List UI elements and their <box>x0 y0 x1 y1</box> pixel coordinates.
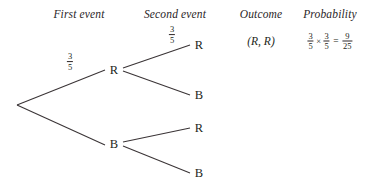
fraction-denominator: 5 <box>323 41 329 50</box>
branch-root-to-b <box>17 105 105 145</box>
node-second-event-red-from-red: R <box>195 39 203 52</box>
fraction-denominator: 5 <box>307 41 313 50</box>
probability-expression-rr: 3 5 × 3 5 = 9 25 <box>307 32 352 51</box>
tree-branch-lines <box>0 0 370 185</box>
fraction-numerator: 3 <box>323 31 329 41</box>
fraction-factor-two: 3 5 <box>323 31 329 50</box>
branch-probability-first-red: 3 5 <box>67 52 73 72</box>
fraction-denominator: 5 <box>67 62 73 71</box>
fraction-three-fifths: 3 5 <box>67 52 73 71</box>
fraction-factor-one: 3 5 <box>307 31 313 50</box>
node-first-event-red: R <box>110 64 118 77</box>
branch-r-to-b <box>123 71 190 95</box>
branch-root-to-r <box>17 70 105 105</box>
outcome-value-rr: (R, R) <box>247 35 274 48</box>
fraction-numerator: 9 <box>342 31 353 41</box>
branch-r-to-r <box>123 45 190 68</box>
branch-b-to-b <box>123 146 190 173</box>
fraction-numerator: 3 <box>67 52 73 62</box>
fraction-three-fifths: 3 5 <box>169 25 175 44</box>
fraction-result: 9 25 <box>342 31 353 50</box>
node-second-event-blue-from-red: B <box>195 89 203 102</box>
branch-probability-second-red: 3 5 <box>169 25 175 45</box>
node-second-event-blue-from-blue: B <box>195 167 203 180</box>
branch-b-to-r <box>123 128 190 142</box>
node-first-event-blue: B <box>110 138 118 151</box>
probability-tree-diagram: First event Second event Outcome Probabi… <box>0 0 370 185</box>
multiplication-operator: × <box>316 37 321 46</box>
equals-operator: = <box>332 36 339 46</box>
fraction-denominator: 25 <box>342 41 353 50</box>
node-second-event-red-from-blue: R <box>195 122 203 135</box>
fraction-numerator: 3 <box>169 25 175 35</box>
fraction-numerator: 3 <box>307 31 313 41</box>
fraction-denominator: 5 <box>169 35 175 44</box>
